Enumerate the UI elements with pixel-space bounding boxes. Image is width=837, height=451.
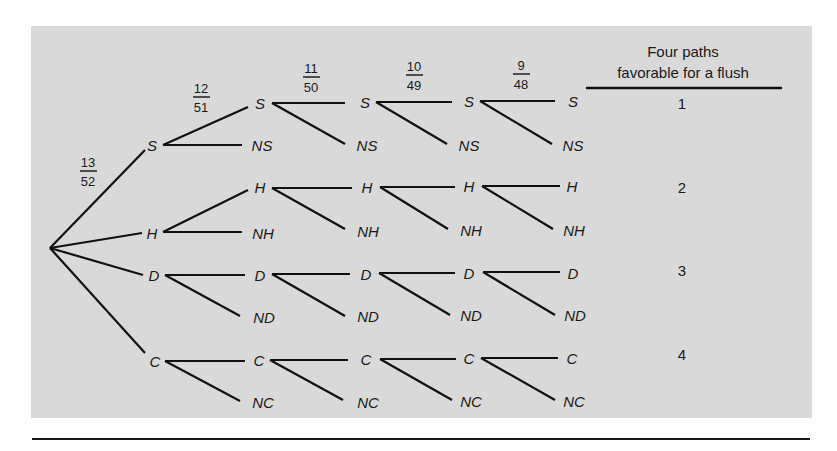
header-line-2: favorable for a flush [617,64,749,81]
fraction-numerator: 10 [407,59,421,74]
probability-tree: 13 52 12 51 11 50 10 49 9 48 S H D C S N… [0,0,837,451]
node-nd-5: ND [564,307,586,324]
node-nd-3: ND [357,308,379,325]
node-nh-4: NH [460,222,482,239]
node-nc-4: NC [460,393,482,410]
node-ns-5: NS [563,137,584,154]
node-d-3: D [361,266,372,283]
node-nc-2: NC [252,394,274,411]
fraction-denominator: 52 [81,174,95,189]
node-d-1: D [149,267,160,284]
fraction-denominator: 51 [194,100,208,115]
node-nd-4: ND [460,307,482,324]
node-c-1: C [150,353,161,370]
fraction-denominator: 49 [407,78,421,93]
node-h-2: H [255,179,266,196]
node-ns-4: NS [459,137,480,154]
node-d-4: D [464,265,475,282]
path-count-4: 4 [678,346,686,363]
node-ns-3: NS [357,137,378,154]
fraction-numerator: 13 [81,155,95,170]
node-s-2: S [255,95,265,112]
path-count-3: 3 [678,262,686,279]
node-nc-3: NC [357,394,379,411]
node-nh-3: NH [357,223,379,240]
node-d-2: D [255,267,266,284]
path-count-1: 1 [678,95,686,112]
fraction-13-52: 13 52 [80,155,97,189]
fraction-numerator: 12 [194,81,208,96]
fraction-denominator: 48 [514,77,528,92]
node-s-1: S [147,137,157,154]
fraction-11-50: 11 50 [303,61,320,95]
node-s-5: S [568,93,578,110]
node-h-4: H [464,178,475,195]
node-nd-2: ND [253,309,275,326]
node-d-5: D [568,265,579,282]
node-c-3: C [361,351,372,368]
fraction-12-51: 12 51 [193,81,210,115]
node-c-5: C [567,350,578,367]
node-nc-5: NC [563,393,585,410]
fraction-numerator: 9 [517,58,524,73]
path-count-2: 2 [678,179,686,196]
header-line-1: Four paths [647,43,719,60]
node-c-4: C [464,350,475,367]
node-nh-5: NH [563,222,585,239]
fraction-denominator: 50 [304,80,318,95]
node-ns-2: NS [252,137,273,154]
node-h-3: H [362,179,373,196]
fraction-9-48: 9 48 [513,58,530,92]
node-nh-2: NH [252,225,274,242]
fraction-numerator: 11 [304,61,318,76]
node-h-5: H [567,178,578,195]
root-branches [50,150,145,353]
node-c-2: C [254,352,265,369]
node-h-1: H [147,225,158,242]
node-s-3: S [360,94,370,111]
fraction-10-49: 10 49 [406,59,423,93]
node-s-4: S [464,93,474,110]
